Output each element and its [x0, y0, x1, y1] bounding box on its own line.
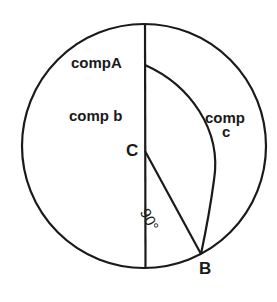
label-comp-a: compA: [71, 55, 122, 70]
label-point-c: C: [126, 142, 138, 159]
label-comp-c-line2: c: [222, 124, 230, 139]
vertical-diameter-line: [145, 24, 146, 269]
diagram-canvas: compA comp b comp c C B 90°: [0, 0, 277, 302]
label-comp-b: comp b: [69, 108, 122, 123]
label-point-b: B: [199, 260, 211, 277]
segment-c-to-b: [145, 151, 201, 254]
diagram-svg: [0, 0, 277, 302]
